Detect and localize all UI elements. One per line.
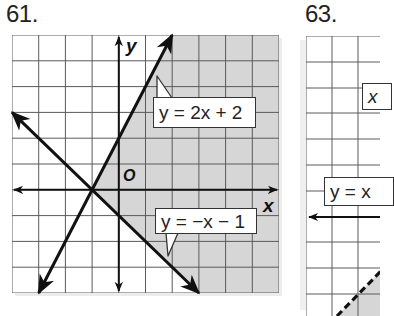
x-axis-label: x (263, 196, 274, 215)
equation-label-2x-plus-2: y = 2x + 2 (153, 97, 256, 128)
label-text: x (368, 87, 378, 106)
graph-61 (12, 35, 282, 296)
graph-background (306, 36, 380, 316)
equation-label-neg-x-minus-1: y = −x − 1 (155, 208, 257, 234)
label-x-box: x (362, 83, 392, 110)
y-axis-label: y (126, 36, 137, 55)
equation-label-y-eq-x: y = x (324, 177, 394, 206)
equation-text: y = −x − 1 (161, 212, 245, 231)
graph-63 (300, 36, 380, 316)
equation-text: y = 2x + 2 (159, 103, 242, 122)
origin-label: O (123, 168, 135, 184)
graph-shadow (300, 40, 306, 310)
equation-text: y = x (330, 182, 371, 201)
